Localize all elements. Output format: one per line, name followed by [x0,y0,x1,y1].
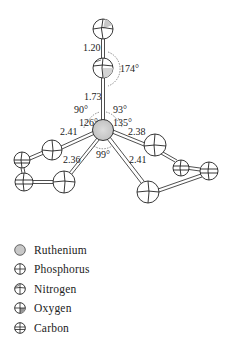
atom-carbon [200,162,218,180]
bond-label-ru-p1: 2.41 [60,126,78,137]
legend-label: Ruthenium [34,244,87,256]
atom-carbon [173,160,189,176]
atom-phosphorus [144,134,166,156]
atom-phosphorus [137,181,159,203]
legend: Ruthenium Phosphorus Nitrogen Oxygen [14,240,90,338]
legend-item-nitrogen: Nitrogen [14,279,90,299]
legend-label: Phosphorus [34,263,90,275]
oxygen-icon [14,302,26,314]
angle-label-90: 90° [74,104,88,115]
legend-label: Carbon [34,322,69,334]
phosphorus-icon [14,263,26,275]
legend-item-ruthenium: Ruthenium [14,240,90,260]
angle-label-174: 174° [120,63,139,74]
legend-item-oxygen: Oxygen [14,299,90,319]
legend-item-carbon: Carbon [14,318,90,338]
angle-label-93: 93° [113,104,127,115]
bond-label-ru-p2: 2.36 [63,154,81,165]
atom-carbon [14,152,30,168]
atom-phosphorus [53,171,75,193]
bond-label-n-ru: 1.73 [84,91,102,102]
atom-phosphorus [42,140,62,160]
ruthenium-icon [14,244,26,256]
bond-label-ru-p3: 2.38 [128,126,146,137]
nitrogen-icon [14,283,26,295]
atom-carbon [15,173,33,191]
bond-label-ru-p4: 2.41 [129,154,147,165]
legend-item-phosphorus: Phosphorus [14,260,90,280]
bond-label-o-n: 1.20 [83,42,101,53]
legend-label: Nitrogen [34,283,76,295]
atom-oxygen [93,19,113,39]
atom-nitrogen [93,58,113,78]
legend-label: Oxygen [34,302,72,314]
angle-label-126: 126° [79,117,98,128]
angle-label-99: 99° [96,149,110,160]
carbon-icon [14,322,26,334]
